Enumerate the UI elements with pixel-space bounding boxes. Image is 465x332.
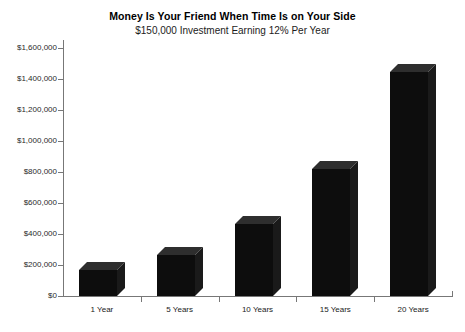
- bar-side-face: [350, 161, 358, 296]
- x-axis-tick: [63, 291, 64, 297]
- y-axis-tick: [58, 203, 64, 204]
- y-axis-tick: [58, 172, 64, 173]
- x-axis-tick-label: 20 Years: [374, 305, 452, 314]
- bar: [157, 247, 195, 296]
- x-axis-tick-label: 15 Years: [296, 305, 374, 314]
- bar-front-face: [79, 270, 117, 296]
- y-axis-tick-label: $400,000: [24, 230, 57, 238]
- y-axis-tick-label: $1,000,000: [17, 137, 57, 145]
- y-axis-tick-label: $1,600,000: [17, 44, 57, 52]
- bar-side-face: [117, 262, 125, 296]
- bar: [235, 216, 273, 296]
- y-axis-tick-label: $200,000: [24, 261, 57, 269]
- bar-front-face: [157, 255, 195, 296]
- bar-side-face: [273, 216, 281, 296]
- x-axis-tick-label: 10 Years: [219, 305, 297, 314]
- x-axis-tick: [296, 297, 297, 302]
- y-axis-tick-label: $800,000: [24, 168, 57, 176]
- x-axis-tick: [141, 297, 142, 302]
- x-axis-tick-label: 5 Years: [141, 305, 219, 314]
- y-axis-tick: [58, 141, 64, 142]
- y-axis-tick-label: $600,000: [24, 199, 57, 207]
- x-axis-line: [63, 296, 452, 297]
- bar-side-face: [428, 64, 436, 296]
- x-axis-tick: [452, 291, 453, 297]
- chart-title: Money Is Your Friend When Time Is on You…: [0, 10, 465, 23]
- y-axis-tick: [58, 234, 64, 235]
- y-axis-tick-label: $1,200,000: [17, 106, 57, 114]
- bar-front-face: [235, 224, 273, 296]
- y-axis-labels: $0$200,000$400,000$600,000$800,000$1,000…: [0, 40, 57, 297]
- x-axis-tick-label: 1 Year: [63, 305, 141, 314]
- chart-container: Money Is Your Friend When Time Is on You…: [0, 0, 465, 332]
- bar-front-face: [390, 72, 428, 296]
- y-axis-tick: [58, 48, 64, 49]
- plot-area: 1 Year5 Years10 Years15 Years20 Years: [63, 40, 452, 297]
- bar-front-face: [312, 169, 350, 296]
- bar: [79, 262, 117, 296]
- y-axis-tick: [58, 265, 64, 266]
- chart-title-block: Money Is Your Friend When Time Is on You…: [0, 10, 465, 37]
- x-axis-tick: [219, 297, 220, 302]
- x-axis-tick: [374, 297, 375, 302]
- y-axis-tick: [58, 79, 64, 80]
- y-axis-tick-label: $0: [48, 292, 57, 300]
- bar: [312, 161, 350, 296]
- chart-subtitle: $150,000 Investment Earning 12% Per Year: [0, 24, 465, 37]
- y-axis-tick: [58, 110, 64, 111]
- bar: [390, 64, 428, 296]
- y-axis-tick-label: $1,400,000: [17, 75, 57, 83]
- bar-side-face: [195, 247, 203, 296]
